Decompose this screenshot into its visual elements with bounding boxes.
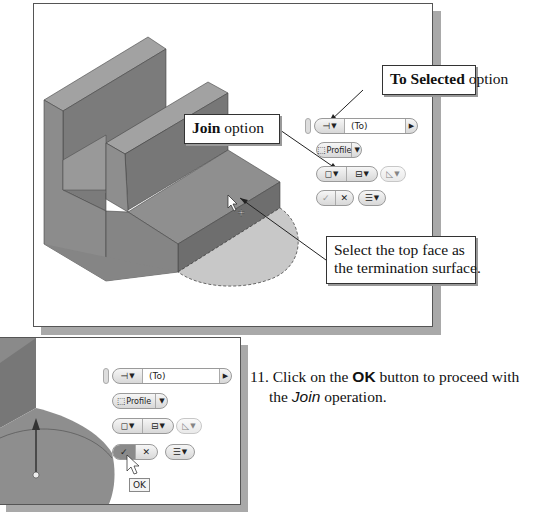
step-text: button to proceed with: [376, 368, 520, 385]
step-italic-join: Join: [292, 388, 320, 405]
step-line-1: 11. Click on the OK button to proceed wi…: [250, 367, 545, 387]
ok-tooltip: OK: [129, 478, 150, 492]
step-instruction: 11. Click on the OK button to proceed wi…: [250, 367, 545, 407]
step-text: the: [269, 388, 292, 405]
step-number: 11.: [250, 368, 269, 385]
step-text: Click on the: [269, 368, 353, 385]
mouse-cursor-icon: [0, 0, 549, 516]
step-bold-ok: OK: [352, 368, 375, 385]
step-text: operation.: [320, 388, 386, 405]
step-line-2: the Join operation.: [250, 387, 545, 407]
